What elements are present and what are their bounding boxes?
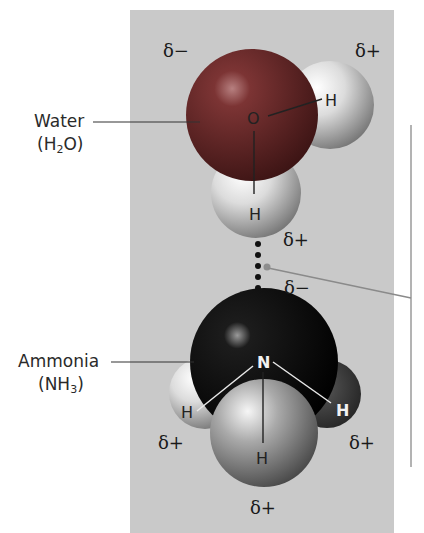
ammonia-formula: (NH3): [38, 374, 84, 400]
ammonia-hydrogen-bottom-sphere: [210, 379, 318, 487]
water-h-right-label: H: [325, 91, 337, 110]
water-h-right-charge: δ+: [355, 40, 381, 61]
ammonia-h-bottom-label: H: [256, 449, 268, 468]
ammonia-nitrogen-charge: δ−: [284, 277, 310, 298]
ammonia-h-right-charge: δ+: [349, 432, 375, 453]
ammonia-name: Ammonia: [18, 351, 99, 371]
ammonia-h-bottom-charge: δ+: [250, 497, 276, 518]
ammonia-nitrogen-label: N: [257, 353, 270, 372]
water-name: Water: [34, 111, 84, 131]
ammonia-h-left-charge: δ+: [158, 432, 184, 453]
water-oxygen-charge: δ−: [163, 40, 189, 61]
ammonia-label: Ammonia: [18, 351, 99, 371]
water-label: Water: [34, 111, 84, 131]
water-h-bottom-charge: δ+: [283, 229, 309, 250]
ammonia-h-left-label: H: [181, 403, 193, 422]
molecule-illustration: [0, 0, 424, 533]
water-molecule: [186, 49, 374, 238]
hydrogen-bond-dots: [255, 241, 261, 291]
ammonia-h-right-label: H: [336, 401, 349, 420]
water-oxygen-label: O: [247, 109, 260, 128]
water-h-bottom-label: H: [249, 205, 261, 224]
hydrogen-bond-leader-marker: [264, 264, 271, 271]
water-formula: (H2O): [37, 134, 83, 160]
